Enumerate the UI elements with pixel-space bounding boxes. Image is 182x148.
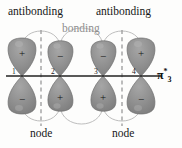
lobe-bottom-atom-4-highlight (134, 105, 142, 111)
orbital-designation: π*3 (157, 68, 172, 84)
sign-bottom-atom-3: + (100, 92, 106, 103)
lobe-top-atom-2-highlight (53, 43, 60, 49)
lobe-top-atom-3-highlight (96, 43, 103, 49)
sign-bottom-atom-4: − (138, 94, 144, 105)
sign-top-atom-2: − (57, 51, 63, 62)
atom-index-1: 1 (12, 68, 16, 76)
sign-bottom-atom-1: − (19, 94, 25, 105)
label-node-right: node (112, 128, 134, 140)
atom-index-3: 3 (94, 68, 98, 76)
sign-top-atom-4: + (138, 48, 144, 59)
atom-index-2: 2 (51, 68, 55, 76)
sign-top-atom-3: − (100, 51, 106, 62)
lobe-bottom-atom-3-highlight (96, 103, 103, 109)
label-bonding: bonding (62, 23, 100, 35)
lobe-bottom-atom-2-highlight (53, 103, 60, 109)
label-antibonding-right: antibonding (96, 6, 151, 18)
sign-top-atom-1: + (19, 48, 25, 59)
label-node-left: node (30, 128, 52, 140)
diagram-canvas: antibonding antibonding bonding node nod… (0, 0, 182, 148)
sign-bottom-atom-2: + (57, 92, 63, 103)
orbital-pi-symbol: π (157, 68, 164, 82)
atom-index-4: 4 (132, 68, 136, 76)
lobe-bottom-atom-1-highlight (15, 105, 23, 111)
orbital-subscript: 3 (168, 75, 172, 84)
label-antibonding-left: antibonding (8, 6, 63, 18)
